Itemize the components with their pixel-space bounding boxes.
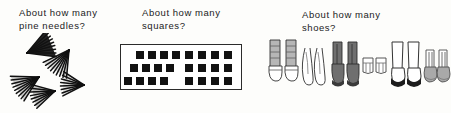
- prompt-shoes: About how many shoes?: [302, 9, 380, 34]
- prompt-pine-needles: About how many pine needles?: [19, 7, 97, 32]
- square: [160, 51, 168, 59]
- square: [172, 51, 180, 59]
- square: [211, 51, 219, 59]
- shoe: [391, 42, 405, 87]
- worksheet-page: About how many pine needles?: [0, 0, 451, 113]
- shoe: [363, 58, 373, 74]
- square: [136, 51, 144, 59]
- shoe-pair-thong-sandals: [302, 48, 325, 85]
- squares-box: [120, 44, 242, 90]
- square: [130, 64, 138, 72]
- shoe: [302, 48, 313, 85]
- shoe: [269, 40, 282, 81]
- shoe: [347, 42, 359, 87]
- panel-squares: About how many squares?: [130, 0, 260, 113]
- shoe: [407, 42, 421, 87]
- square: [224, 51, 232, 59]
- shoe: [437, 50, 450, 82]
- square: [148, 51, 156, 59]
- shoe: [314, 48, 325, 85]
- prompt-squares: About how many squares?: [142, 7, 220, 32]
- square: [160, 77, 168, 85]
- square: [198, 51, 206, 59]
- square-group-left: [124, 45, 182, 89]
- shoe: [376, 58, 386, 74]
- square: [224, 77, 232, 85]
- shoe-pair-loafers: [424, 50, 450, 82]
- square: [142, 64, 150, 72]
- square: [136, 77, 144, 85]
- pine-needle-clusters-illustration: [0, 33, 130, 111]
- square-group-right: [185, 45, 240, 89]
- square: [224, 64, 232, 72]
- square: [185, 77, 193, 85]
- shoe: [424, 50, 437, 82]
- square: [154, 64, 162, 72]
- square: [166, 64, 174, 72]
- shoes-illustration: [260, 36, 451, 113]
- panel-pine-needles: About how many pine needles?: [0, 0, 130, 113]
- square: [211, 64, 219, 72]
- shoe: [332, 42, 344, 87]
- shoe: [285, 40, 298, 81]
- square: [124, 77, 132, 85]
- square: [185, 51, 193, 59]
- shoe-pair-tall-boots: [391, 42, 421, 87]
- shoe-pair-high-top-sneakers: [269, 40, 298, 81]
- panel-shoes: About how many shoes?: [260, 0, 451, 113]
- shoe-pair-baby-shoes: [363, 58, 386, 74]
- square: [185, 64, 193, 72]
- shoe-pair-work-boots: [332, 42, 359, 87]
- square: [198, 64, 206, 72]
- square: [148, 77, 156, 85]
- square: [211, 77, 219, 85]
- square: [198, 77, 206, 85]
